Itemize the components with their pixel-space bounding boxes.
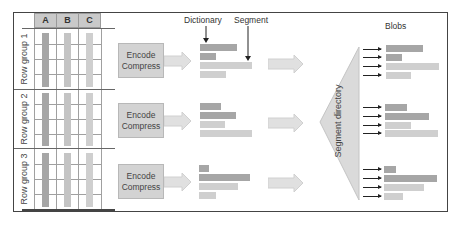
segment-pointer-arrow-icon [245, 26, 251, 62]
row-group-label-3: Row group 3 [14, 148, 34, 209]
row-group-separator [22, 209, 115, 211]
blob-bar [385, 130, 438, 137]
column-header-a: A [34, 13, 57, 28]
column-header-b: B [56, 13, 79, 28]
arrow-right-icon [363, 125, 381, 126]
column-a-data-bar [42, 93, 49, 146]
row-group-label-text: Row group 2 [19, 93, 29, 144]
column-a-data-bar [42, 33, 49, 87]
row-group-label-text: Row group 3 [19, 153, 29, 204]
arrow-right-icon [363, 178, 381, 179]
blob-bar [386, 54, 402, 61]
arrow-right-icon [363, 49, 381, 50]
row-group-label-text: Row group 1 [19, 33, 29, 84]
segment-bar [199, 183, 238, 190]
blob-bar [384, 166, 396, 173]
segment-bar [200, 62, 252, 69]
segment-label: Segment [234, 15, 268, 25]
segment-directory-label: Segment directory [333, 81, 343, 161]
arrow-right-icon [363, 196, 381, 197]
blob-bar [384, 193, 403, 200]
encode-label: Encode [119, 110, 163, 121]
compress-label: Compress [119, 61, 163, 72]
arrow-right-icon [363, 75, 381, 76]
column-a-data-bar [42, 153, 49, 207]
segment-bar [200, 53, 216, 60]
arrow-right-icon [363, 66, 381, 67]
segment-bar [200, 44, 237, 51]
block-arrow-right-icon [164, 52, 192, 70]
arrow-right-icon [363, 187, 381, 188]
column-c-data-bar [86, 33, 93, 87]
row-group-separator [22, 28, 115, 29]
column-c-data-bar [86, 93, 93, 146]
arrow-right-icon [363, 57, 381, 58]
segment-bar [199, 192, 216, 199]
dictionary-label: Dictionary [184, 15, 222, 25]
arrow-right-icon [363, 133, 381, 134]
segment-bar [200, 130, 252, 137]
blob-bar [384, 175, 437, 182]
grid-line [101, 28, 102, 211]
blob-bar [386, 45, 423, 52]
encode-compress-box-3: Encode Compress [118, 164, 164, 199]
block-arrow-right-icon [268, 174, 304, 192]
row-group-label-2: Row group 2 [14, 89, 34, 148]
blob-bar [385, 104, 407, 111]
row-group-label-1: Row group 1 [14, 28, 34, 89]
block-arrow-right-icon [268, 55, 304, 73]
column-b-data-bar [64, 153, 71, 207]
compress-label: Compress [119, 182, 163, 193]
block-arrow-right-icon [164, 173, 192, 191]
encode-compress-box-2: Encode Compress [118, 103, 164, 138]
segment-bar [199, 165, 209, 172]
blob-bar [386, 63, 439, 70]
segment-bar [200, 121, 225, 128]
arrow-right-icon [363, 107, 381, 108]
blob-bar [385, 122, 411, 129]
block-arrow-right-icon [164, 112, 192, 130]
arrow-right-icon [363, 169, 381, 170]
segment-bar [200, 71, 226, 78]
blob-bar [386, 72, 411, 79]
encode-label: Encode [119, 50, 163, 61]
arrow-right-icon [363, 116, 381, 117]
block-arrow-right-icon [268, 114, 304, 132]
blob-bar [385, 113, 429, 120]
column-b-data-bar [64, 93, 71, 146]
segment-bar [200, 103, 221, 110]
blob-bar [384, 184, 424, 191]
dictionary-pointer-arrow-icon [203, 26, 209, 44]
encode-compress-box-1: Encode Compress [118, 43, 164, 78]
segment-bar [200, 112, 236, 119]
blobs-label: Blobs [385, 21, 406, 31]
encode-label: Encode [119, 171, 163, 182]
column-b-data-bar [64, 33, 71, 87]
segment-bar [199, 174, 250, 181]
column-c-data-bar [86, 153, 93, 207]
column-header-c: C [78, 13, 101, 28]
compress-label: Compress [119, 121, 163, 132]
